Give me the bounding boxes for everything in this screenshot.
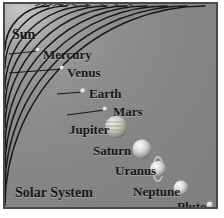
label-neptune: Neptune (133, 185, 180, 198)
label-mercury: Mercury (43, 48, 92, 61)
film-grain-overlay (5, 4, 216, 207)
diagram-title: Solar System (15, 186, 93, 200)
label-venus: Venus (67, 66, 100, 79)
label-saturn: Saturn (93, 144, 131, 157)
label-earth: Earth (89, 87, 122, 100)
label-jupiter: Jupiter (69, 123, 109, 136)
label-uranus: Uranus (115, 164, 156, 177)
image-frame: Sun Mercury Venus Earth Mars Jupiter Sat… (3, 2, 218, 209)
label-sun: Sun (12, 28, 35, 42)
solar-system-image: Sun Mercury Venus Earth Mars Jupiter Sat… (0, 0, 224, 218)
label-pluto: Pluto (177, 200, 207, 207)
label-mars: Mars (113, 105, 143, 118)
